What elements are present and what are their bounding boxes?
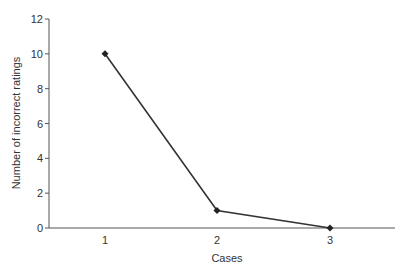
data-line (105, 54, 330, 228)
y-axis-label: Number of incorrect ratings (10, 56, 22, 189)
x-axis: 123 (49, 228, 395, 246)
x-tick-label: 1 (102, 234, 108, 246)
x-tick-label: 3 (327, 234, 333, 246)
y-tick-label: 12 (31, 13, 43, 25)
y-tick-label: 0 (37, 222, 43, 234)
plot-area (102, 50, 334, 231)
x-axis-label: Cases (211, 252, 243, 264)
data-point-marker (327, 225, 334, 232)
y-tick-label: 8 (37, 83, 43, 95)
y-tick-label: 2 (37, 187, 43, 199)
y-tick-label: 4 (37, 152, 43, 164)
line-chart: 024681012 123 Cases Number of incorrect … (0, 0, 403, 275)
x-tick-label: 2 (214, 234, 220, 246)
y-tick-label: 10 (31, 48, 43, 60)
y-tick-label: 6 (37, 118, 43, 130)
y-axis: 024681012 (31, 13, 49, 234)
